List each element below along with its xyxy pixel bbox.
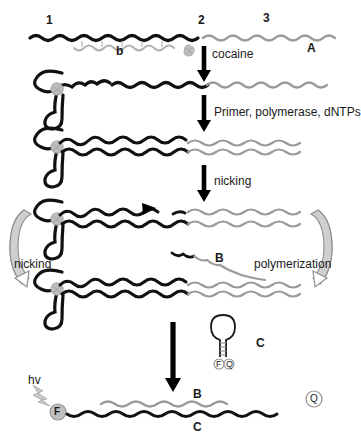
label-panel-a: A [307, 42, 316, 54]
curved-arrow-polymerization [311, 210, 332, 287]
arrow-step-primer [197, 95, 211, 132]
strand-gray-top [203, 36, 335, 41]
label-hairpin-quencher: Q [226, 360, 233, 369]
strand-black-panel-b [112, 83, 208, 88]
strand-black-bottom-d [62, 221, 188, 227]
label-product-strand-b: B [193, 388, 202, 400]
panel-b-aptamer-complex [35, 71, 327, 129]
label-released-strand-b: B [215, 252, 224, 264]
label-domain-2: 2 [198, 14, 205, 26]
strand-black-top-e [60, 279, 186, 287]
label-product-strand-c: C [193, 421, 202, 433]
aptamer-loop-lower-2 [45, 150, 63, 187]
aptamer-loop-lower-3 [45, 222, 63, 259]
strand-black-top [30, 36, 198, 41]
strand-gray-top-e [188, 283, 300, 288]
strand-gray-bottom-d [188, 222, 300, 227]
light-bolt-icon [33, 385, 50, 406]
product-strand-black [67, 412, 277, 417]
panel-a-top-complex [30, 36, 335, 51]
product-strand-gray [101, 402, 227, 407]
label-step-primer: Primer, polymerase, dNTPs [214, 106, 361, 118]
panel-d-nicked-duplex [35, 200, 300, 259]
aptamer-loop-lower-4 [45, 292, 63, 329]
arrow-step-final [165, 322, 181, 392]
aptamer-loop-lower [45, 92, 63, 129]
strand-gray-bottom-c [188, 150, 300, 155]
strand-black-bottom-c [62, 149, 188, 155]
label-step-cocaine: cocaine [212, 48, 253, 60]
label-step-nicking-1: nicking [214, 175, 251, 187]
label-product-fluorophore: F [54, 407, 60, 417]
product-open-reporter [33, 385, 322, 420]
label-domain-3: 3 [263, 12, 270, 24]
strand-blocker-b [74, 46, 174, 51]
label-step-polymerization: polymerization [254, 258, 331, 270]
aptamer-arm-right [56, 81, 110, 88]
strand-gray-top-d [188, 210, 300, 215]
label-domain-1: 1 [46, 14, 53, 26]
arrow-step-nicking-1 [197, 165, 211, 202]
strand-gray-panel-b [207, 83, 327, 88]
label-product-quencher: Q [310, 394, 318, 404]
strand-black-bottom-e [62, 291, 188, 297]
nick-triangle-icon [142, 203, 156, 215]
strand-gray-bottom-e [188, 292, 300, 297]
strand-black-top-c [60, 137, 186, 145]
curved-arrow-nicking [10, 210, 31, 287]
arrow-step-cocaine [197, 46, 211, 82]
label-step-nicking-2: nicking [14, 258, 51, 270]
strand-gray-top-c [188, 141, 300, 146]
label-hairpin-c: C [256, 337, 265, 349]
label-blocker-b: b [116, 45, 123, 57]
label-hairpin-fluorophore: F [216, 360, 222, 369]
cocaine-molecule-icon [184, 45, 194, 56]
label-excitation-hv: hv [28, 374, 41, 386]
panel-c-extended-duplex [35, 128, 300, 187]
nicked-fragment [173, 212, 185, 214]
